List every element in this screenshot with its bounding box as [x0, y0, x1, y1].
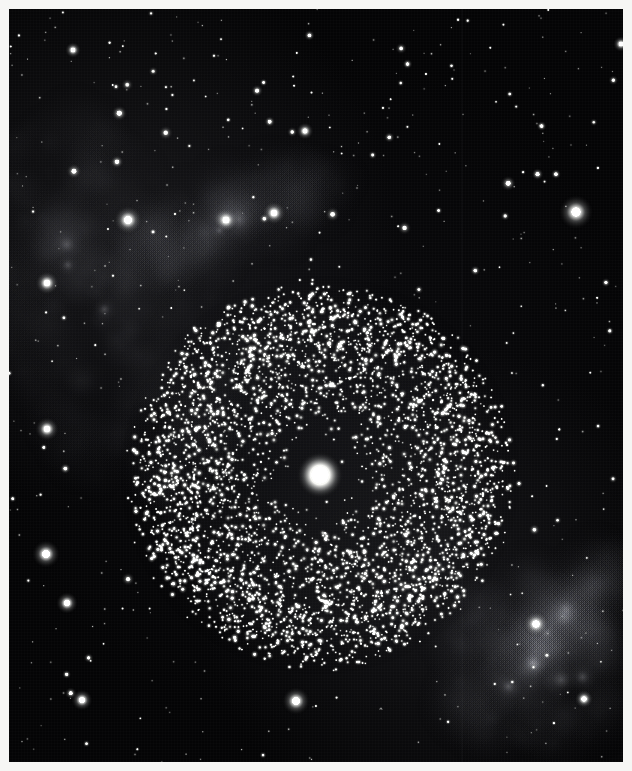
- globular-cluster-layer: [9, 9, 623, 762]
- sky-field: [9, 9, 623, 762]
- photographic-plate: [0, 0, 632, 771]
